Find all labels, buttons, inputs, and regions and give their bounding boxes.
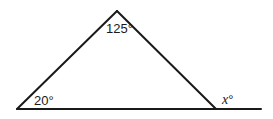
degree-symbol: ° [228,92,233,107]
left-angle-label: 20° [34,93,54,108]
triangle-diagram: 125° 20° x° [0,0,273,119]
left-side [17,11,117,109]
exterior-angle-label: x° [221,92,233,107]
apex-angle-label: 125° [106,21,133,36]
